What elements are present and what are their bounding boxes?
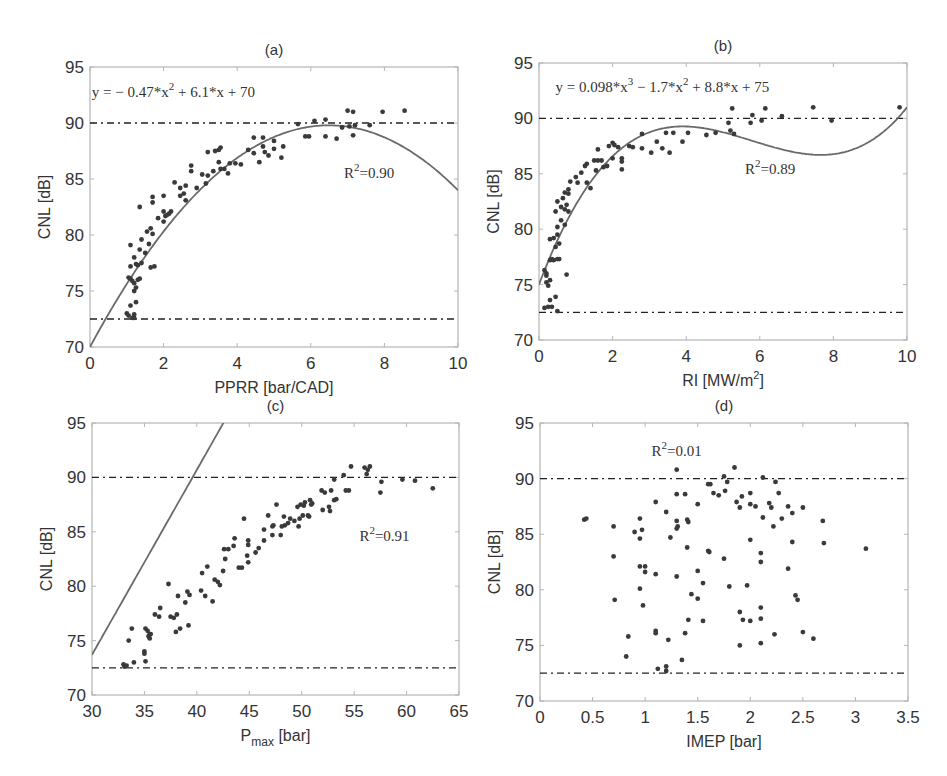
data-point [349, 464, 354, 469]
data-point [553, 245, 558, 250]
data-point [143, 659, 148, 664]
data-point [211, 169, 216, 174]
x-tick-label: 0.5 [581, 708, 605, 727]
data-point [674, 467, 679, 472]
data-point [183, 183, 188, 188]
data-point [680, 139, 685, 144]
data-point [132, 316, 137, 321]
fit-curve [92, 7, 459, 654]
y-tick-label: 85 [514, 165, 533, 184]
data-point [664, 510, 669, 515]
y-tick-label: 75 [515, 636, 534, 655]
data-point [430, 486, 435, 491]
data-point [584, 161, 589, 166]
data-point [713, 130, 718, 135]
data-point [605, 164, 610, 169]
y-tick-label: 95 [65, 58, 84, 77]
data-point [643, 564, 648, 569]
data-point [607, 144, 612, 149]
data-point [573, 175, 578, 180]
data-point [750, 113, 755, 118]
data-point [734, 500, 739, 505]
data-point [568, 179, 573, 184]
data-point [769, 505, 774, 510]
fit-curve [539, 107, 907, 284]
x-tick-label: 2 [746, 708, 755, 727]
x-tick-label: 1 [640, 708, 649, 727]
data-point [189, 169, 194, 174]
y-tick-label: 90 [65, 114, 84, 133]
data-point [758, 551, 763, 556]
y-tick-label: 80 [67, 577, 86, 596]
data-point [132, 281, 137, 286]
data-point [722, 556, 727, 561]
data-point [737, 643, 742, 648]
data-point [829, 118, 834, 123]
data-point [616, 145, 621, 150]
data-point [780, 114, 785, 119]
data-point [551, 236, 556, 241]
data-point [239, 162, 244, 167]
data-point [157, 614, 162, 619]
data-point [210, 599, 215, 604]
data-point [174, 630, 179, 635]
data-point [686, 130, 691, 135]
data-point [737, 610, 742, 615]
data-point [128, 243, 133, 248]
data-point [172, 180, 177, 185]
data-point [619, 159, 624, 164]
data-point [779, 516, 784, 521]
data-point [748, 120, 753, 125]
data-point [226, 171, 231, 176]
data-point [638, 586, 643, 591]
data-point [161, 193, 166, 198]
data-point [758, 605, 763, 610]
data-point [303, 500, 308, 505]
data-point [668, 535, 673, 540]
x-tick-label: 3.5 [896, 708, 920, 727]
data-point [223, 557, 228, 562]
y-tick-label: 85 [515, 525, 534, 544]
data-point [186, 623, 191, 628]
data-point [262, 150, 267, 155]
data-point [761, 515, 766, 520]
x-tick-label: 10 [898, 347, 917, 366]
x-tick-label: 1.5 [686, 708, 710, 727]
axes-frame [540, 423, 908, 701]
r-squared-label: R2=0.89 [745, 157, 795, 177]
data-point [246, 538, 251, 543]
data-point [178, 186, 183, 191]
data-point [555, 309, 560, 314]
data-point [761, 475, 766, 480]
data-point [640, 146, 645, 151]
data-point [143, 251, 148, 256]
data-point [619, 167, 624, 172]
data-point [367, 123, 372, 128]
data-point [205, 150, 210, 155]
data-point [711, 491, 716, 496]
fit-equation: y = − 0.47*x2 + 6.1*x + 70 [92, 80, 255, 100]
data-point [189, 163, 194, 168]
data-point [708, 482, 713, 487]
data-point [811, 105, 816, 110]
data-point [695, 569, 700, 574]
data-point [278, 533, 283, 538]
data-point [240, 565, 245, 570]
data-point [142, 651, 147, 656]
data-point [378, 490, 383, 495]
y-tick-label: 85 [67, 523, 86, 542]
data-point [347, 124, 352, 129]
data-point [793, 593, 798, 598]
data-point [150, 195, 155, 200]
data-point [257, 160, 262, 165]
data-point [686, 617, 691, 622]
data-point [566, 191, 571, 196]
data-point [139, 237, 144, 242]
subplot-b: 0246810707580859095(b)CNL [dB]RI [MW/m2]… [485, 37, 916, 389]
data-point [771, 524, 776, 529]
x-tick-label: 2 [608, 347, 617, 366]
data-point [564, 202, 569, 207]
data-point [175, 612, 180, 617]
data-point [674, 492, 679, 497]
data-point [763, 106, 768, 111]
